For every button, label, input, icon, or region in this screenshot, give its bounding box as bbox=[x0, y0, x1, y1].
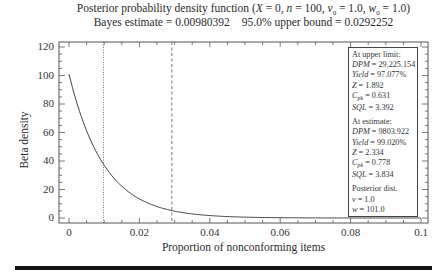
yield-label: Yield bbox=[352, 70, 368, 79]
x-tick-label: 0 bbox=[49, 226, 89, 238]
page-rule bbox=[15, 266, 432, 270]
z-value: = 2.334 bbox=[357, 148, 384, 157]
dpm-value: = 29,225.154 bbox=[370, 60, 416, 69]
sql-label: SQL bbox=[352, 103, 367, 112]
sql-value: = 3.834 bbox=[367, 170, 394, 179]
sql-label: SQL bbox=[352, 170, 367, 179]
w-value: = 101.0 bbox=[357, 205, 384, 214]
legend-heading: At upper limit: bbox=[352, 50, 417, 60]
x-tick-label: 0.04 bbox=[190, 226, 230, 238]
legend-heading: Posterior dist. bbox=[352, 184, 417, 194]
y-axis-label: Beta density bbox=[4, 100, 64, 180]
dpm-value: = 9803.922 bbox=[370, 127, 409, 136]
dpm-label: DPM bbox=[352, 60, 370, 69]
svg-text:Beta density: Beta density bbox=[18, 111, 31, 168]
x-tick-label: 0.1 bbox=[401, 226, 441, 238]
x-tick-label: 0.06 bbox=[260, 226, 300, 238]
y-tick-label: 100 bbox=[22, 69, 54, 81]
dpm-label: DPM bbox=[352, 127, 370, 136]
legend-heading: At estimate: bbox=[352, 117, 417, 127]
legend-estimate: At estimate: DPM = 9803.922 Yield = 99.0… bbox=[352, 117, 417, 180]
y-tick-label: 20 bbox=[22, 183, 54, 195]
legend-upper-limit: At upper limit: DPM = 29,225.154 Yield =… bbox=[352, 50, 417, 113]
cpk-value: = 0.778 bbox=[363, 158, 390, 167]
cpk-value: = 0.631 bbox=[363, 91, 390, 100]
stats-legend-box: At upper limit: DPM = 29,225.154 Yield =… bbox=[348, 47, 418, 217]
v-value: = 1.0 bbox=[356, 195, 375, 204]
legend-posterior: Posterior dist. v = 1.0 w = 101.0 bbox=[352, 184, 417, 215]
y-tick-label: 0 bbox=[22, 211, 54, 223]
yield-value: = 97.077% bbox=[368, 70, 406, 79]
z-value: = 1.892 bbox=[357, 81, 384, 90]
x-axis-label: Proportion of nonconforming items bbox=[59, 241, 428, 253]
yield-label: Yield bbox=[352, 138, 368, 147]
yield-value: = 99.020% bbox=[368, 138, 406, 147]
sql-value: = 3.392 bbox=[367, 103, 394, 112]
y-tick-label: 120 bbox=[22, 40, 54, 52]
x-tick-label: 0.02 bbox=[119, 226, 159, 238]
x-tick-label: 0.08 bbox=[331, 226, 371, 238]
